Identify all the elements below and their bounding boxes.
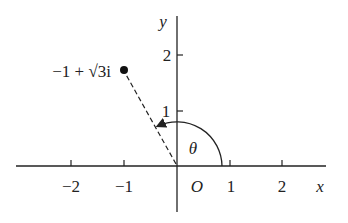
x-tick-label-2: 2 <box>278 177 287 196</box>
point-label: −1 + √3i <box>52 62 111 81</box>
y-axis-label: y <box>157 12 167 31</box>
y-tick-label-1: 1 <box>162 102 171 121</box>
angle-label: θ <box>189 139 197 158</box>
origin-label: O <box>191 177 203 196</box>
x-tick-label-neg1: −1 <box>115 177 133 196</box>
y-tick-label-2: 2 <box>163 46 172 65</box>
x-tick-label-1: 1 <box>227 177 236 196</box>
x-axis-label: x <box>315 177 324 196</box>
y-ticks <box>177 55 183 111</box>
argand-diagram: −2 −1 O 1 2 x 2 1 y θ −1 + √3i <box>0 0 348 223</box>
complex-point <box>120 66 128 74</box>
x-tick-label-neg2: −2 <box>62 177 80 196</box>
